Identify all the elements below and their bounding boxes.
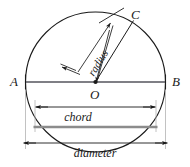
circle-diagram-canvas [0,0,190,167]
label-point-a: A [10,75,18,88]
label-diameter: diameter [74,147,117,159]
label-chord: chord [64,111,92,123]
label-point-b: B [172,75,180,88]
tangent-tick-at-c [99,8,124,23]
label-center-o: O [90,88,99,101]
label-point-c: C [131,8,140,21]
circle-diagram-figure: A B C O radius chord diameter [0,0,190,167]
